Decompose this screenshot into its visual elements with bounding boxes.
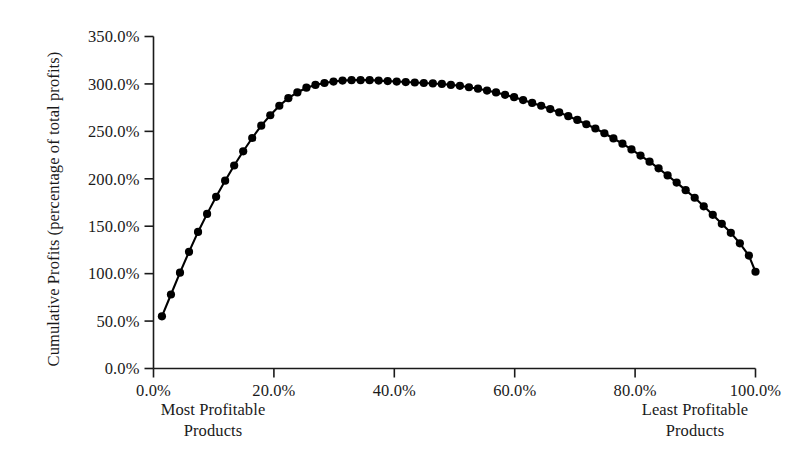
y-tick-label-3: 150.0%: [88, 217, 140, 236]
data-point: [664, 171, 672, 179]
data-point: [167, 290, 175, 298]
y-tick-label-4: 200.0%: [88, 170, 140, 189]
data-point: [158, 312, 166, 320]
x-tick-label-3: 60.0%: [493, 381, 536, 400]
data-point: [194, 228, 202, 236]
data-point: [266, 111, 274, 119]
data-point: [329, 77, 337, 85]
data-point: [600, 129, 608, 137]
data-point: [609, 134, 617, 142]
data-point: [751, 268, 759, 276]
data-point: [420, 79, 428, 87]
data-point: [618, 140, 626, 148]
data-point: [302, 84, 310, 92]
data-point: [239, 147, 247, 155]
x-tick-label-5: 100.0%: [730, 381, 782, 400]
data-point: [564, 112, 572, 120]
y-tick-label-0: 0.0%: [105, 359, 140, 378]
data-point: [691, 194, 699, 202]
data-point: [673, 178, 681, 186]
data-point: [320, 79, 328, 87]
data-point: [474, 85, 482, 93]
data-point: [347, 76, 355, 84]
data-point: [221, 177, 229, 185]
data-point: [682, 186, 690, 194]
y-tick-label-1: 50.0%: [96, 312, 139, 331]
plot-canvas: 0.0%50.0%100.0%150.0%200.0%250.0%300.0%3…: [0, 0, 810, 467]
data-point: [411, 78, 419, 86]
least-profitable-note-line2: Products: [600, 420, 790, 441]
data-point: [257, 122, 265, 130]
data-point: [284, 94, 292, 102]
data-point: [510, 93, 518, 101]
most-profitable-note: Most Profitable Products: [118, 399, 308, 441]
data-point: [627, 145, 635, 153]
data-point: [311, 81, 319, 89]
data-point: [456, 82, 464, 90]
y-tick-label-6: 300.0%: [88, 75, 140, 94]
data-point: [483, 86, 491, 94]
data-point: [582, 120, 590, 128]
data-point: [718, 220, 726, 228]
data-point: [736, 239, 744, 247]
chart-figure: Cumulative Profits (percentage of total …: [0, 0, 810, 467]
y-tick-label-2: 100.0%: [88, 264, 140, 283]
data-point: [636, 151, 644, 159]
least-profitable-note: Least Profitable Products: [600, 399, 790, 441]
data-point: [654, 164, 662, 172]
most-profitable-note-line1: Most Profitable: [118, 399, 308, 420]
y-tick-label-5: 250.0%: [88, 122, 140, 141]
data-point: [338, 77, 346, 85]
data-point: [645, 158, 653, 166]
data-point: [447, 81, 455, 89]
data-point: [176, 269, 184, 277]
data-point: [185, 248, 193, 256]
data-point: [402, 78, 410, 86]
data-point: [429, 79, 437, 87]
data-point: [727, 229, 735, 237]
data-point: [745, 252, 753, 260]
data-point: [248, 134, 256, 142]
least-profitable-note-line1: Least Profitable: [600, 399, 790, 420]
data-point: [275, 102, 283, 110]
x-tick-label-4: 80.0%: [614, 381, 657, 400]
x-tick-label-1: 20.0%: [252, 381, 295, 400]
data-point: [356, 76, 364, 84]
data-point: [366, 76, 374, 84]
data-line: [162, 80, 756, 316]
data-point: [230, 161, 238, 169]
x-tick-label-0: 0.0%: [136, 381, 171, 400]
data-point: [492, 88, 500, 96]
data-point: [375, 77, 383, 85]
data-point: [393, 77, 401, 85]
data-point: [528, 99, 536, 107]
data-point: [212, 193, 220, 201]
most-profitable-note-line2: Products: [118, 420, 308, 441]
data-point: [700, 202, 708, 210]
data-point: [519, 96, 527, 104]
data-point: [709, 211, 717, 219]
data-point: [555, 108, 563, 116]
data-point: [203, 210, 211, 218]
data-point: [384, 77, 392, 85]
data-point: [293, 88, 301, 96]
data-point: [465, 83, 473, 91]
data-point: [501, 91, 509, 99]
y-tick-label-7: 350.0%: [88, 27, 140, 46]
data-point: [438, 80, 446, 88]
data-point: [573, 116, 581, 124]
data-point: [546, 105, 554, 113]
x-tick-label-2: 40.0%: [373, 381, 416, 400]
data-point: [537, 102, 545, 110]
data-point: [591, 124, 599, 132]
